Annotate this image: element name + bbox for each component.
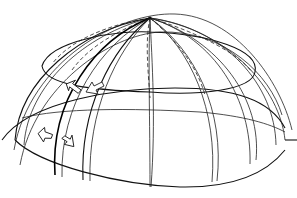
meridian-rib <box>150 18 153 187</box>
arrow-up-left-icon <box>86 82 104 94</box>
apex-hub <box>148 16 151 19</box>
rear-meridian <box>150 18 252 72</box>
meridian-rib <box>150 18 285 140</box>
meridian-rib <box>149 18 150 187</box>
meridian-rib <box>150 18 213 182</box>
flow-arrows <box>36 78 104 150</box>
meridian-rib <box>150 18 250 164</box>
arrow-up-left-icon <box>36 126 54 144</box>
meridian-rib <box>150 18 218 181</box>
arrow-down-right-icon <box>60 132 78 150</box>
meridian-rib <box>150 18 276 145</box>
dome-diagram <box>0 0 297 198</box>
rear-meridian <box>72 18 150 70</box>
meridian-ribs <box>15 18 285 187</box>
